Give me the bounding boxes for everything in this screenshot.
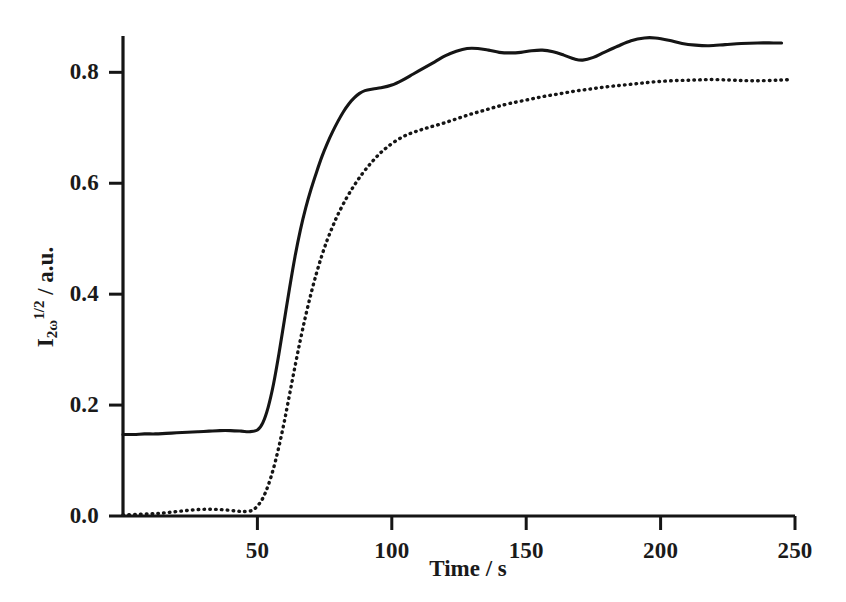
series-solid-curve	[123, 38, 782, 435]
y-tick-label: 0.6	[0, 170, 99, 196]
x-tick-label: 150	[509, 538, 544, 564]
plot-svg	[0, 0, 846, 602]
y-axis-title: I2ω1/2 / a.u.	[31, 247, 62, 347]
x-tick-label: 100	[374, 538, 409, 564]
y-axis-title-unit-text: / a.u.	[33, 247, 58, 295]
x-tick-label: 200	[643, 538, 678, 564]
y-axis-ticks	[109, 72, 123, 516]
y-axis-title-unit	[33, 295, 58, 301]
y-tick-label: 0.0	[0, 503, 99, 529]
x-axis-ticks	[257, 516, 795, 530]
x-axis-title: Time / s	[429, 556, 507, 582]
series-dotted-curve	[123, 80, 792, 515]
x-tick-label: 50	[246, 538, 269, 564]
x-tick-label: 250	[777, 538, 812, 564]
figure-canvas: 0.00.20.40.60.8 50100150200250 Time / s …	[0, 0, 846, 602]
y-axis-title-superscript: 1/2	[31, 301, 47, 320]
y-tick-label: 0.2	[0, 392, 99, 418]
y-axis-title-subscript: 2ω	[44, 320, 60, 338]
y-axis-title-base: I	[33, 338, 58, 347]
y-tick-label: 0.8	[0, 59, 99, 85]
